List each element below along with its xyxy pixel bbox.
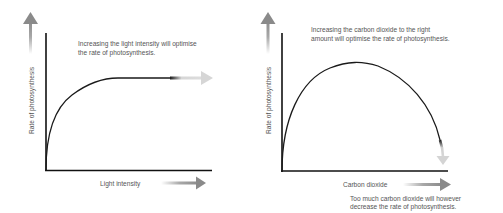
- left-y-arrow-icon: [23, 12, 38, 54]
- left-annotation-line2: the rate of photosynthesis.: [78, 49, 155, 57]
- right-y-axis-label: Rate of photosynthesis: [265, 65, 272, 137]
- right-y-arrow-icon: [261, 12, 276, 54]
- right-curve: [282, 62, 440, 171]
- right-annotation-line2: amount will optimise the rate of photosy…: [311, 35, 450, 43]
- left-plateau-arrow-icon: [170, 71, 213, 85]
- left-x-axis-label: Light intensity: [100, 180, 140, 188]
- left-curve: [46, 78, 170, 170]
- right-annotation-line1: Increasing the carbon dioxide to the rig…: [311, 26, 430, 34]
- right-x-axis-label: Carbon dioxide: [343, 181, 387, 189]
- right-x-arrow-icon: [403, 178, 451, 191]
- right-bottom-note-line2: decrease the rate of photosynthesis.: [350, 203, 456, 211]
- left-annotation-line1: Increasing the light intensity will opti…: [78, 40, 197, 48]
- right-bottom-note-line1: Too much carbon dioxide will however: [350, 195, 461, 203]
- right-drop-arrow-icon: [437, 140, 450, 165]
- left-y-axis-label: Rate of photosynthesis: [28, 65, 35, 137]
- left-x-arrow-icon: [161, 177, 206, 190]
